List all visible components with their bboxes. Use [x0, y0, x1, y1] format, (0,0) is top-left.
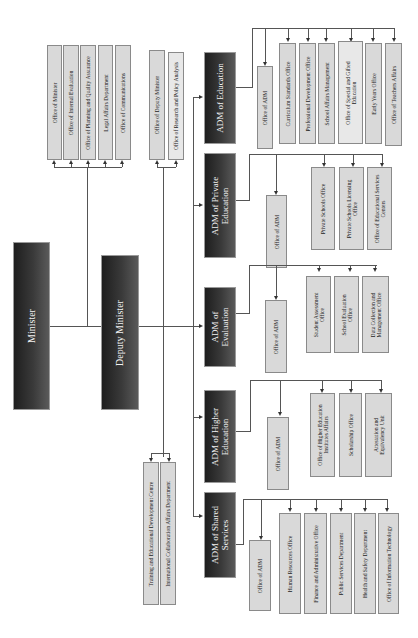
office-label: Office of ADM — [273, 214, 279, 248]
adm-higher-education-office: Office of ADM — [267, 417, 289, 490]
connector — [261, 499, 262, 537]
arrow-icon — [288, 508, 292, 512]
connector — [157, 167, 176, 168]
office-label: Office of Deputy Minister — [154, 76, 160, 134]
arrow-icon — [52, 160, 56, 164]
office-label: International Collaboration Affairs Depa… — [165, 481, 171, 586]
deputy-minister-label: Deputy Minister — [114, 300, 126, 366]
office-label: Office of ADM — [275, 436, 281, 470]
connector — [139, 326, 199, 327]
office-label: Office of Internal Evaluation — [68, 70, 74, 135]
connector — [250, 380, 382, 381]
arrow-icon — [199, 203, 203, 207]
office-label: Training and Educational Development Cen… — [148, 481, 154, 586]
minister-box: Minister — [13, 242, 50, 410]
arrow-icon — [371, 38, 375, 42]
school-affairs-management: School Affairs Management — [318, 43, 335, 144]
educational-services-centers-office: Office of Educational Services Centers — [367, 167, 392, 250]
office-label: Office of Communications — [120, 73, 126, 133]
office-label: Office of Research and Policy Analysis — [173, 62, 179, 150]
office-of-minister: Office of Minister — [47, 45, 62, 160]
connector — [236, 544, 243, 545]
arrow-icon — [363, 508, 367, 512]
office-label: Office of Minister — [51, 82, 57, 123]
adm-shared-services-office: Office of ADM — [249, 540, 271, 611]
office-of-internal-evaluation: Office of Internal Evaluation — [63, 45, 79, 160]
unit-label: Office of Information Technology — [385, 526, 391, 602]
minister-label: Minister — [26, 309, 38, 343]
unit-label: Office of Special and Gifted Education — [344, 57, 357, 129]
adm-evaluation-office: Office of ADM — [265, 300, 287, 373]
connector — [249, 154, 250, 201]
connector — [50, 326, 101, 327]
unit-label: Scholarship Office — [347, 414, 353, 456]
office-label: Legal Affairs Department — [102, 74, 108, 131]
private-schools-licensing-office: Private Schools Licensing Office — [339, 167, 364, 250]
arrow-icon — [348, 268, 352, 272]
adm-education-box: ADM of Education — [204, 52, 236, 144]
unit-label: Early Years Office — [370, 73, 376, 114]
unit-label: Human Resources Office — [287, 535, 293, 591]
office-label: Office of ADM — [262, 90, 268, 124]
adm-education-office: Office of ADM — [257, 66, 273, 149]
unit-label: Professional Development Office — [304, 56, 310, 131]
training-development-centre: Training and Educational Development Cen… — [143, 462, 159, 605]
arrow-icon — [317, 268, 321, 272]
legal-affairs-department: Legal Affairs Department — [98, 45, 113, 160]
arrow-icon — [174, 160, 178, 164]
attestation-equivalency-unit: Attestation and Equivalency Unit — [365, 393, 392, 477]
arrow-icon — [199, 415, 203, 419]
connector — [252, 28, 253, 88]
arrow-icon — [199, 95, 203, 99]
professional-development-office: Professional Development Office — [299, 43, 316, 144]
unit-label: Health and Safety Department — [362, 530, 368, 598]
teachers-affairs-office: Office of Teachers Affairs — [385, 43, 402, 146]
higher-education-institutes-office: Office of Higher Education Institutes Af… — [310, 393, 335, 477]
adm-label: ADM of Evaluation — [210, 297, 231, 357]
human-resources-office: Human Resources Office — [279, 513, 301, 614]
adm-label: ADM of Education — [215, 63, 225, 133]
office-label: Office of ADM — [257, 558, 263, 592]
connector — [236, 431, 250, 432]
office-of-deputy-minister: Office of Deputy Minister — [149, 50, 165, 160]
unit-label: Private Schools Office — [320, 183, 326, 234]
arrow-icon — [69, 160, 73, 164]
arrow-icon — [324, 38, 328, 42]
data-collection-management-office: Data Collection and Management Office — [362, 276, 389, 353]
finance-administrative-office: Finance and Administrative Office — [304, 513, 327, 614]
arrow-icon — [86, 160, 90, 164]
information-technology-office: Office of Information Technology — [378, 513, 399, 614]
arrow-icon — [199, 324, 203, 328]
office-label: Office of Planning and Quality Assurance — [85, 56, 91, 150]
office-of-planning-quality: Office of Planning and Quality Assurance — [80, 45, 96, 160]
scholarship-office: Scholarship Office — [339, 393, 362, 477]
connector — [280, 380, 281, 413]
international-collaboration-dept: International Collaboration Affairs Depa… — [160, 462, 176, 605]
connector — [249, 265, 377, 266]
unit-label: Attestation and Equivalency Unit — [372, 404, 385, 466]
unit-label: Public Services Department — [338, 532, 344, 594]
arrow-icon — [199, 514, 203, 518]
unit-label: Data Collection and Management Office — [369, 280, 382, 350]
health-safety-department: Health and Safety Department — [354, 513, 376, 614]
connector — [54, 167, 122, 168]
unit-label: Student Assessment Office — [312, 285, 325, 345]
arrow-icon — [278, 412, 282, 416]
connector — [163, 167, 164, 457]
unit-label: Private Schools Licensing Office — [345, 179, 358, 239]
connector — [87, 167, 88, 327]
connector — [243, 499, 244, 545]
unit-label: Office of Higher Education Institutes Af… — [316, 396, 329, 474]
arrow-icon — [103, 160, 107, 164]
special-gifted-education-office: Office of Special and Gifted Education — [338, 41, 363, 144]
adm-private-office: Office of ADM — [266, 195, 287, 268]
adm-label: ADM of Private Education — [210, 166, 231, 246]
unit-label: Office of Educational Services Centers — [373, 174, 386, 244]
arrow-icon — [120, 160, 124, 164]
connector — [236, 87, 252, 88]
public-services-department: Public Services Department — [330, 513, 352, 614]
arrow-icon — [286, 38, 290, 42]
adm-label: ADM of Higher Education — [210, 397, 231, 477]
connector — [193, 97, 194, 517]
school-evaluation-office: School Evaluation Office — [334, 276, 359, 353]
